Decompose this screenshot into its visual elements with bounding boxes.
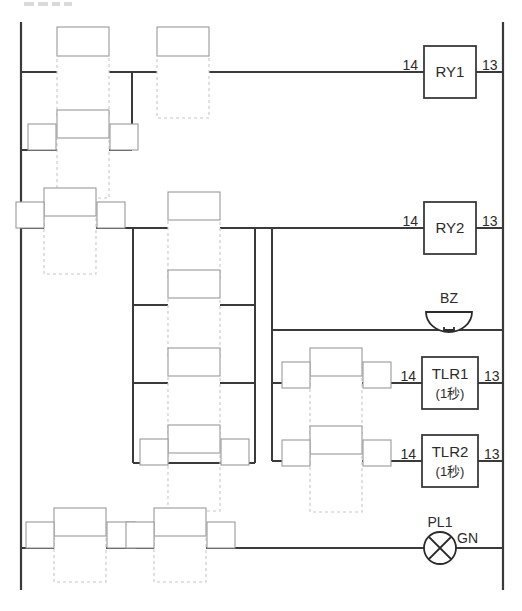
coil-sublabel: (1秒) <box>436 386 465 401</box>
contact-c-tlr2[interactable] <box>282 426 391 512</box>
contact-terminal-left <box>140 439 168 465</box>
contact-c-ry1-a[interactable] <box>57 27 109 118</box>
terminal-left-label: 14 <box>402 213 418 229</box>
contact-terminal-left <box>28 124 56 150</box>
contact-label-box <box>54 508 106 536</box>
contact-terminal-right <box>110 124 138 150</box>
contact-ghost-body <box>168 220 220 278</box>
contact-terminal-right <box>221 439 249 465</box>
terminal-right-label: 13 <box>482 213 498 229</box>
contact-label-box <box>57 110 109 138</box>
contact-c-mid-1[interactable] <box>168 192 220 278</box>
contact-c-mid-2[interactable] <box>168 270 220 356</box>
terminal-right-label: 13 <box>484 446 500 462</box>
ladder-diagram-canvas: RY1 14 13 <box>0 0 522 611</box>
terminal-left-label: 14 <box>402 57 418 73</box>
contact-label-box <box>168 348 220 376</box>
contact-label-box <box>168 425 220 453</box>
buzzer-label: BZ <box>440 290 458 306</box>
device-RY1[interactable]: RY1 14 13 <box>402 46 497 98</box>
contact-terminal-right <box>207 522 235 548</box>
pilot-lamp-label: PL1 <box>428 514 453 530</box>
terminal-right-label: 13 <box>482 57 498 73</box>
device-TLR1[interactable]: TLR1 (1秒) 14 13 <box>400 357 499 409</box>
contact-ghost-body <box>57 56 109 118</box>
device-TLR2[interactable]: TLR2 (1秒) 14 13 <box>400 435 499 487</box>
terminal-right-label: 13 <box>484 368 500 384</box>
contact-c-pl-a[interactable] <box>26 508 135 582</box>
contact-c-tlr1[interactable] <box>282 348 391 434</box>
contact-ghost-body <box>310 454 362 512</box>
contact-c-ry2-a[interactable] <box>16 188 125 274</box>
contact-c-pl-b[interactable] <box>126 508 235 582</box>
contact-ghost-body <box>168 298 220 356</box>
device-BZ[interactable]: BZ <box>426 290 472 332</box>
contact-terminal-left <box>282 440 310 466</box>
power-rails <box>21 22 503 590</box>
contact-ghost-body <box>44 216 96 274</box>
coil-label: RY2 <box>436 219 465 236</box>
contact-ghost-body <box>157 56 209 118</box>
device-PL1[interactable]: PL1 GN <box>424 514 478 564</box>
contact-label-box <box>310 426 362 454</box>
contact-ghost-body <box>168 453 220 511</box>
contact-terminal-left <box>16 202 44 228</box>
contact-label-box <box>168 192 220 220</box>
coil-label: TLR2 <box>432 443 469 460</box>
contact-terminal-left <box>26 522 54 548</box>
contact-ghost-body <box>154 536 206 582</box>
contact-label-box <box>157 27 209 56</box>
pilot-lamp-color: GN <box>457 530 478 546</box>
contact-ghost-body <box>310 376 362 434</box>
ladder-diagram: RY1 14 13 <box>0 0 522 611</box>
contact-ghost-body <box>54 536 106 582</box>
contact-c-mid-4[interactable] <box>140 425 249 511</box>
contact-c-ry1-b[interactable] <box>157 27 209 118</box>
terminal-left-label: 14 <box>400 446 416 462</box>
contact-label-box <box>168 270 220 298</box>
coil-sublabel: (1秒) <box>436 464 465 479</box>
contact-label-box <box>44 188 96 216</box>
coil-label: TLR1 <box>432 365 469 382</box>
device-RY2[interactable]: RY2 14 13 <box>402 202 497 254</box>
buzzer-stem-shape <box>444 327 454 330</box>
contact-terminal-right <box>363 362 391 388</box>
contact-terminal-left <box>126 522 154 548</box>
contact-c-mid-3[interactable] <box>168 348 220 434</box>
contact-label-box <box>57 27 109 56</box>
contact-label-box <box>154 508 206 536</box>
terminal-left-label: 14 <box>400 368 416 384</box>
contact-c-seal-1[interactable] <box>28 110 138 198</box>
contact-terminal-left <box>282 362 310 388</box>
contact-terminal-right <box>363 440 391 466</box>
contact-terminal-right <box>97 202 125 228</box>
crop-artifact <box>24 2 72 6</box>
branch-bus-right <box>272 228 503 461</box>
contact-label-box <box>310 348 362 376</box>
coil-label: RY1 <box>436 63 465 80</box>
